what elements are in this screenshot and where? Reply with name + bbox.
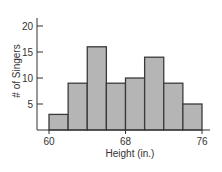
y-tick-label: 15 — [22, 47, 34, 58]
x-tick-label: 76 — [196, 136, 208, 147]
histogram-bar — [183, 104, 202, 130]
x-tick-label: 60 — [43, 136, 55, 147]
histogram-bars — [49, 47, 202, 130]
y-tick-label: 10 — [22, 73, 34, 84]
x-axis-label: Height (in.) — [100, 148, 160, 159]
x-tick-label: 68 — [120, 136, 132, 147]
histogram-bar — [145, 57, 164, 130]
histogram-chart: 5101520606876 — [0, 0, 222, 172]
y-tick-label: 5 — [27, 99, 33, 110]
histogram-bar — [106, 83, 125, 130]
histogram-bar — [87, 47, 106, 130]
histogram-bar — [49, 114, 68, 130]
histogram-bar — [68, 83, 87, 130]
y-tick-label: 20 — [22, 21, 34, 32]
y-axis-label: # of Singers — [11, 36, 23, 106]
histogram-bar — [164, 83, 183, 130]
histogram-bar — [126, 78, 145, 130]
